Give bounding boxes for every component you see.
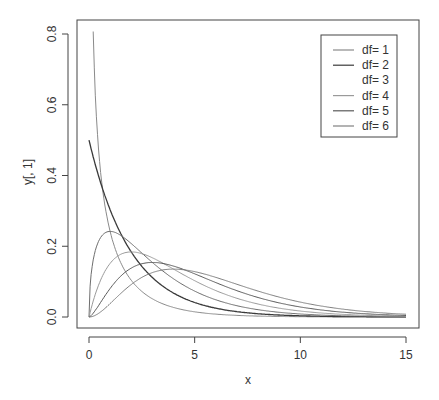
- x-axis-label: x: [245, 373, 251, 387]
- y-tick-label: 0.0: [45, 308, 59, 325]
- legend: df= 1df= 2df= 3df= 4df= 5df= 6: [321, 35, 397, 137]
- y-axis: 0.00.20.40.60.8: [45, 25, 68, 325]
- legend-label: df= 3: [362, 73, 389, 87]
- legend-label: df= 1: [362, 43, 389, 57]
- curve-df-6: [89, 269, 406, 317]
- legend-label: df= 5: [362, 104, 389, 118]
- x-axis: 051015: [86, 337, 413, 362]
- curve-df-2: [89, 140, 406, 317]
- y-tick-label: 0.2: [45, 238, 59, 255]
- x-tick-label: 15: [399, 348, 413, 362]
- y-tick-label: 0.4: [45, 167, 59, 184]
- y-axis-label: y[, 1]: [21, 159, 35, 185]
- curve-df-5: [89, 263, 406, 318]
- x-tick-label: 5: [191, 348, 198, 362]
- legend-label: df= 2: [362, 58, 389, 72]
- y-tick-label: 0.8: [45, 25, 59, 42]
- x-tick-label: 0: [86, 348, 93, 362]
- legend-label: df= 6: [362, 119, 389, 133]
- curve-df-4: [89, 252, 406, 317]
- curve-df-3: [89, 231, 406, 317]
- chart-canvas: 051015 0.00.20.40.60.8 x y[, 1] df= 1df=…: [0, 0, 439, 400]
- x-tick-label: 10: [294, 348, 308, 362]
- y-tick-label: 0.6: [45, 96, 59, 113]
- legend-label: df= 4: [362, 89, 389, 103]
